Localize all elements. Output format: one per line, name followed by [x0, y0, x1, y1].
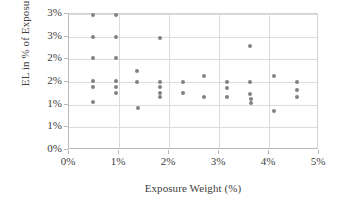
data-point: [91, 85, 95, 89]
data-point: [248, 80, 252, 84]
x-axis-tick-mark: [318, 150, 319, 154]
y-axis-tick-label: 2%: [22, 52, 62, 63]
data-point: [114, 79, 118, 83]
y-axis-tick-label: 2%: [22, 75, 62, 86]
x-axis-tick-mark: [268, 150, 269, 154]
x-axis-tick-label: 1%: [98, 156, 138, 167]
data-point: [295, 80, 299, 84]
gridline-vertical: [219, 14, 220, 148]
data-point: [135, 80, 139, 84]
gridline-vertical: [119, 14, 120, 148]
data-point: [248, 92, 252, 96]
data-point: [158, 85, 162, 89]
data-point: [158, 80, 162, 84]
x-axis-tick-label: 2%: [148, 156, 188, 167]
y-axis-tick-label: 3%: [22, 7, 62, 18]
scatter-chart: EL in % of Exposure 0%1%1%2%2%3%3% 0%1%2…: [0, 0, 342, 207]
data-point: [158, 95, 162, 99]
data-point: [91, 35, 95, 39]
gridline-vertical: [169, 14, 170, 148]
data-point: [158, 36, 162, 40]
gridline-horizontal: [69, 127, 317, 128]
data-point: [225, 86, 229, 90]
data-point: [135, 69, 139, 73]
gridline-vertical: [269, 14, 270, 148]
plot-area: [68, 13, 318, 149]
gridline-horizontal: [69, 59, 317, 60]
data-point: [114, 91, 118, 95]
y-axis-tick-label: 1%: [22, 98, 62, 109]
x-axis-tick-mark: [118, 150, 119, 154]
data-point: [114, 13, 118, 17]
x-axis-tick-mark: [168, 150, 169, 154]
x-axis-tick-label: 3%: [198, 156, 238, 167]
y-axis-tick-labels: 0%1%1%2%2%3%3%: [18, 13, 62, 149]
data-point: [114, 35, 118, 39]
data-point: [202, 74, 206, 78]
data-point: [225, 80, 229, 84]
gridline-horizontal: [69, 37, 317, 38]
data-point: [272, 74, 276, 78]
gridline-horizontal: [69, 82, 317, 83]
x-axis-tick-mark: [68, 150, 69, 154]
y-axis-tick-label: 1%: [22, 120, 62, 131]
data-point: [249, 97, 253, 101]
y-axis-tick-label: 3%: [22, 30, 62, 41]
data-point: [225, 95, 229, 99]
x-axis-title: Exposure Weight (%): [68, 182, 318, 194]
data-point: [272, 109, 276, 113]
gridline-horizontal: [69, 105, 317, 106]
data-point: [248, 44, 252, 48]
data-point: [91, 79, 95, 83]
data-point: [181, 91, 185, 95]
data-point: [202, 95, 206, 99]
data-point: [249, 101, 253, 105]
y-axis-tick-label: 0%: [22, 143, 62, 154]
data-point: [181, 80, 185, 84]
data-point: [91, 13, 95, 17]
x-axis-tick-mark: [218, 150, 219, 154]
data-point: [136, 106, 140, 110]
x-axis-tick-label: 5%: [298, 156, 338, 167]
data-point: [295, 88, 299, 92]
data-point: [114, 85, 118, 89]
x-axis-tick-labels: 0%1%2%3%4%5%: [68, 150, 318, 174]
x-axis-tick-label: 0%: [48, 156, 88, 167]
data-point: [295, 95, 299, 99]
gridline-horizontal: [69, 14, 317, 15]
x-axis-tick-label: 4%: [248, 156, 288, 167]
data-point: [91, 100, 95, 104]
